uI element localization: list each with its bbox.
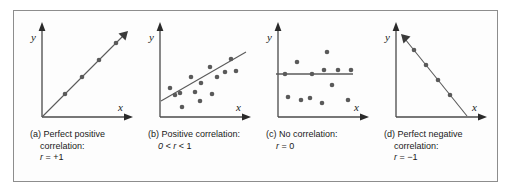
data-point [189,75,194,80]
scatter-plot-d: y x [372,17,490,125]
scatter-plot-c: y x [254,17,372,125]
data-point [114,41,119,46]
panel-d: y x (d) Perfect negative correlation: r … [372,11,490,181]
data-point [178,91,183,96]
data-point [349,68,354,73]
scatter-plot-b: y x [136,17,254,125]
panel-b: y x (b) Positive correlation: 0 < r < 1 [136,11,254,181]
r-value: = +1 [43,152,64,162]
x-axis-arrowhead-b [242,114,251,121]
line-arrowhead-d [401,34,411,44]
x-axis-label-d: x [471,101,477,113]
panel-caption-b: (b) Positive correlation: 0 < r < 1 [136,129,254,152]
data-point [229,57,234,62]
data-point [424,63,429,68]
data-point [80,75,85,80]
data-point [199,81,204,86]
data-point [215,75,220,80]
data-point [336,68,341,73]
data-point [283,72,288,77]
figure-frame: y x (a) Perfect positive correlation: r … [13,10,498,182]
x-axis-arrowhead-c [360,114,369,121]
data-point [63,92,68,97]
data-point [310,72,315,77]
x-axis-label-a: x [117,101,123,113]
data-point [173,93,178,98]
data-point [320,101,325,106]
r-value: = −1 [397,152,418,162]
data-point [436,78,441,83]
caption-line-1: (a) Perfect positive [30,129,136,141]
y-axis-arrowhead-a [39,22,46,31]
r-symbol: 0 < r [158,141,176,151]
data-point [234,69,239,74]
data-point [208,65,213,70]
data-point [210,92,215,97]
data-point [180,105,185,110]
caption-line-3: r = +1 [40,152,136,164]
plot-svg-a: y x [18,17,136,125]
y-axis-label-b: y [148,31,154,43]
data-point [308,96,313,101]
x-axis-label-c: x [353,101,359,113]
data-point [448,93,453,98]
data-point [346,98,351,103]
plot-svg-b: y x [136,17,254,125]
y-axis-arrowhead-d [393,22,400,31]
panel-caption-c: (c) No correlation: r = 0 [254,129,372,152]
y-axis-label-c: y [266,31,272,43]
data-point [322,68,327,73]
data-point [223,70,228,75]
r-value: = 0 [279,141,294,151]
x-axis-arrowhead-d [478,114,487,121]
panel-a: y x (a) Perfect positive correlation: r … [18,11,136,181]
y-axis-label-d: y [384,31,390,43]
scatter-plot-a: y x [18,17,136,125]
x-axis-label-b: x [235,101,241,113]
data-point [330,83,335,88]
data-point [198,99,203,104]
y-axis-arrowhead-c [275,22,282,31]
data-point [168,86,173,91]
plot-svg-d: y x [372,17,490,125]
y-axis-arrowhead-b [157,22,164,31]
x-axis-arrowhead-a [124,114,133,121]
caption-line-3: r = −1 [394,152,490,164]
panel-c: y x (c) No correlation: r = 0 [254,11,372,181]
data-point [325,50,330,55]
data-point [412,48,417,53]
data-point [286,95,291,100]
panel-caption-d: (d) Perfect negative correlation: r = −1 [372,129,490,164]
caption-line-2: correlation: [40,141,136,153]
panel-caption-a: (a) Perfect positive correlation: r = +1 [18,129,136,164]
y-axis-label-a: y [30,31,36,43]
data-point [97,58,102,63]
caption-line-3: r = 0 [276,141,372,153]
caption-line-1: (b) Positive correlation: [148,129,254,141]
data-point [193,90,198,95]
caption-line-1: (d) Perfect negative [384,129,490,141]
caption-line-2: correlation: [394,141,490,153]
data-point [299,98,304,103]
caption-line-3: 0 < r < 1 [158,141,254,153]
r-value: < 1 [176,141,191,151]
data-point [295,60,300,65]
plot-svg-c: y x [254,17,372,125]
caption-line-1: (c) No correlation: [266,129,372,141]
